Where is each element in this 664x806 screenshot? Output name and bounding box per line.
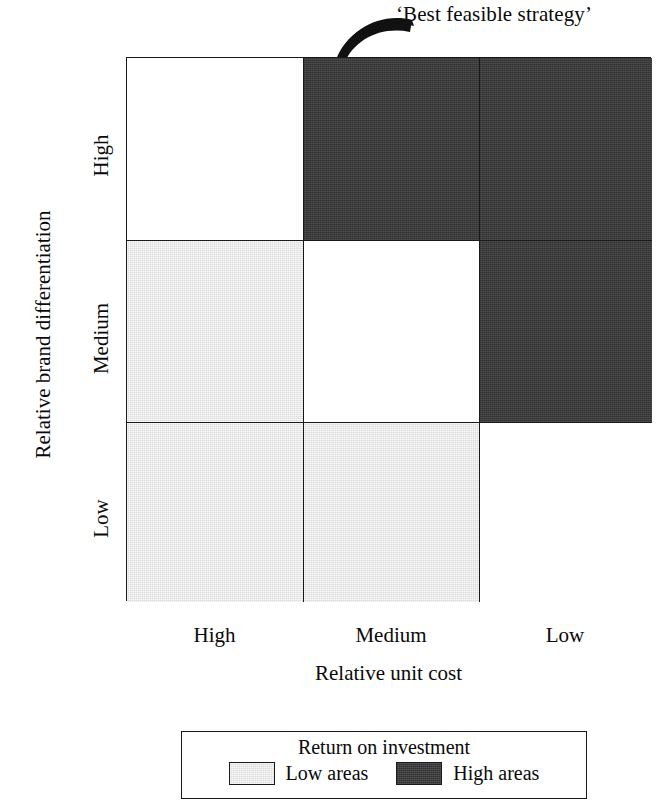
matrix-cell-high-medium[interactable] [304,58,480,241]
matrix-cell-medium-high[interactable] [127,241,304,423]
legend-label-low: Low areas [286,762,369,785]
matrix-cell-medium-medium[interactable] [304,241,480,423]
x-axis-tick-low: Low [479,623,651,648]
legend-item-low-areas: Low areas [229,762,369,785]
legend-swatch-high [396,762,442,785]
legend-title: Return on investment [182,734,586,760]
matrix-cell-low-medium[interactable] [304,423,480,602]
strategy-matrix [126,57,651,601]
matrix-cell-high-low[interactable] [480,58,652,241]
legend-swatch-low [229,762,275,785]
matrix-cell-low-high[interactable] [127,423,304,602]
matrix-cell-low-low[interactable] [480,423,652,602]
y-axis-tick-high: High [89,71,114,241]
y-axis-title: Relative brand differentiation [31,135,56,535]
legend-item-high-areas: High areas [396,762,539,785]
legend-label-high: High areas [453,762,539,785]
legend-items: Low areas High areas [182,762,586,785]
x-axis-title: Relative unit cost [126,661,651,686]
y-axis-tick-low: Low [89,434,114,604]
x-axis-tick-high: High [126,623,303,648]
y-axis-tick-medium: Medium [89,254,114,424]
matrix-cell-high-high[interactable] [127,58,304,241]
matrix-cell-medium-low[interactable] [480,241,652,423]
legend: Return on investment Low areas High area… [181,731,587,799]
x-axis-tick-medium: Medium [303,623,479,648]
